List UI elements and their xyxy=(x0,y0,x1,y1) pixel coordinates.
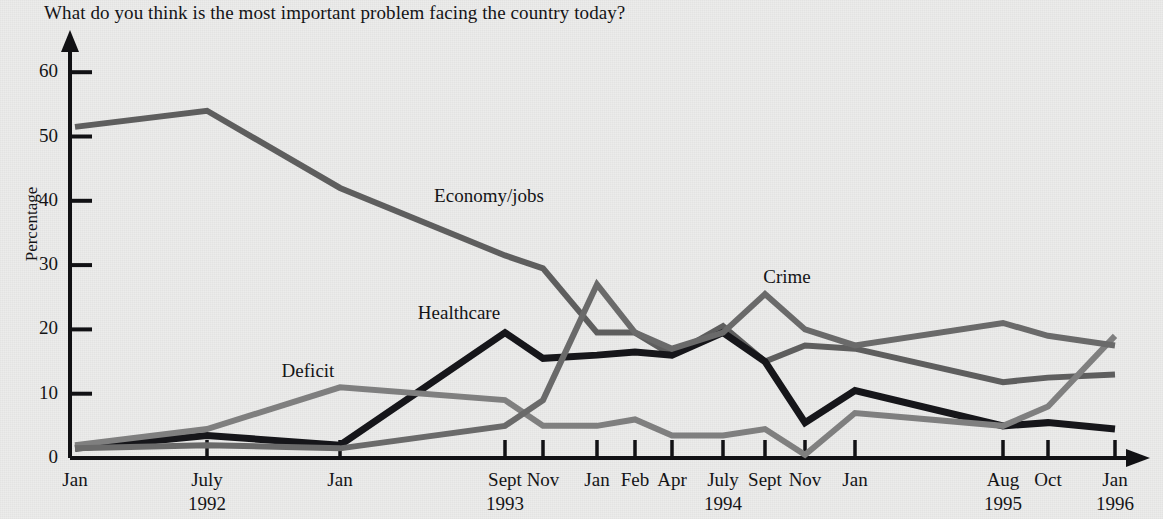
x-axis-tick-6: Feb xyxy=(621,470,650,491)
x-axis-tick-13: Oct xyxy=(1034,470,1061,491)
y-axis-tick-50: 50 xyxy=(0,126,58,145)
x-axis-tick-10: Nov xyxy=(789,470,822,491)
x-axis-year-1995: 1995 xyxy=(984,494,1022,515)
y-axis-tick-10: 10 xyxy=(0,383,58,402)
chart-plot-area xyxy=(0,0,1163,519)
y-axis-tick-60: 60 xyxy=(0,61,58,80)
x-axis-year-1992: 1992 xyxy=(188,494,226,515)
x-axis-year-1996: 1996 xyxy=(1096,494,1134,515)
x-axis-tick-3: Sept xyxy=(488,470,522,491)
x-axis-tick-11: Jan xyxy=(842,470,867,491)
x-axis-tick-4: Nov xyxy=(527,470,560,491)
x-axis-tick-7: Apr xyxy=(657,470,687,491)
x-axis-tick-1: July xyxy=(191,470,223,491)
x-axis-tick-8: July xyxy=(707,470,739,491)
x-axis-year-1993: 1993 xyxy=(486,494,524,515)
x-axis-tick-5: Jan xyxy=(584,470,609,491)
x-axis-year-1994: 1994 xyxy=(704,494,742,515)
x-axis-tick-0: Jan xyxy=(62,470,87,491)
x-axis-tick-2: Jan xyxy=(327,470,352,491)
y-axis-tick-30: 30 xyxy=(0,254,58,273)
y-axis-tick-20: 20 xyxy=(0,318,58,337)
series-label-deficit: Deficit xyxy=(282,360,335,382)
y-axis-tick-40: 40 xyxy=(0,190,58,209)
series-label-healthcare: Healthcare xyxy=(418,302,500,324)
chart-root: What do you think is the most important … xyxy=(0,0,1163,519)
x-axis-tick-12: Aug xyxy=(987,470,1020,491)
series-label-crime: Crime xyxy=(763,266,811,288)
y-axis-tick-0: 0 xyxy=(0,447,58,466)
x-axis-tick-9: Sept xyxy=(748,470,782,491)
x-axis-tick-14: Jan xyxy=(1102,470,1127,491)
series-label-economy-jobs: Economy/jobs xyxy=(434,185,544,207)
